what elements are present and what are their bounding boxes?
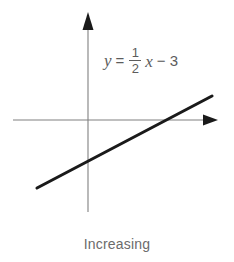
equation-lhs: y	[104, 52, 112, 69]
fraction-denominator: 2	[130, 61, 141, 75]
equation-operator: −	[157, 53, 166, 68]
graph-figure: y = 1 2 x − 3 Increasing	[0, 0, 234, 262]
equation-constant: 3	[170, 53, 178, 68]
equation-label: y = 1 2 x − 3	[104, 46, 178, 75]
coordinate-plane	[0, 0, 234, 262]
equation-fraction: 1 2	[129, 46, 141, 75]
figure-caption: Increasing	[0, 236, 234, 252]
plotted-line	[37, 96, 212, 188]
x-axis-arrowhead-icon	[203, 115, 218, 126]
equation-variable: x	[145, 53, 153, 70]
fraction-numerator: 1	[130, 46, 141, 60]
equation-equals-sign: =	[116, 53, 125, 68]
y-axis-arrowhead-icon	[83, 12, 94, 30]
